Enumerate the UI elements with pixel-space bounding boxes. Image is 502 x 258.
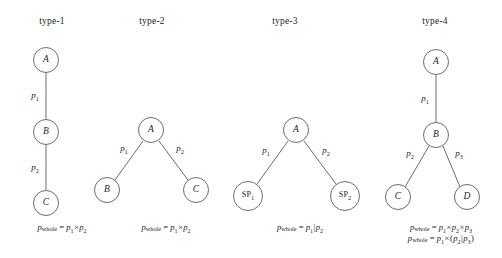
panel-title-type-3: type-3 [272, 16, 297, 26]
node-type-3-A[interactable]: A [283, 117, 309, 143]
edge-label-type-1-p1: p1 [31, 91, 39, 102]
formula-type-2-1: pwhole = p1×p2 [141, 222, 190, 237]
node-type-2-C[interactable]: C [183, 177, 209, 203]
node-type-4-C[interactable]: C [385, 184, 411, 210]
node-label: A [433, 57, 439, 67]
node-label: A [148, 125, 154, 135]
formula-type-1-1: pwhole = p1×p2 [37, 222, 86, 237]
node-type-4-A[interactable]: A [423, 49, 449, 75]
edge-type-3-A-SP2 [304, 141, 336, 184]
edge-label-type-4-p3: p3 [455, 149, 463, 160]
node-label: C [395, 192, 401, 202]
node-label: SP2 [339, 191, 351, 201]
node-type-1-B[interactable]: B [33, 119, 59, 145]
edge-label-type-1-p2: p2 [31, 163, 39, 174]
edge-label-type-4-p1: p1 [421, 94, 429, 105]
panel-title-type-2: type-2 [139, 16, 164, 26]
node-label: B [433, 130, 439, 140]
edge-label-type-3-p2: p2 [322, 146, 330, 157]
node-label: B [104, 185, 110, 195]
node-type-2-B[interactable]: B [94, 177, 120, 203]
node-type-2-A[interactable]: A [138, 117, 164, 143]
node-type-4-D[interactable]: D [454, 184, 480, 210]
edge-label-type-2-p1: p1 [120, 144, 128, 155]
node-type-1-A[interactable]: A [33, 47, 59, 73]
diagram-canvas: type-1ABCp1p2pwhole = p1×p2type-2ABCp1p2… [0, 0, 502, 258]
formula-type-3-1: pwhole = p1|p2 [277, 222, 323, 237]
node-label: C [193, 185, 199, 195]
node-label: C [43, 198, 49, 208]
node-label: B [43, 127, 49, 137]
panel-title-type-1: type-1 [39, 16, 64, 26]
node-type-3-SP1[interactable]: SP1 [233, 181, 263, 211]
edge-label-type-2-p2: p2 [176, 144, 184, 155]
node-type-1-C[interactable]: C [33, 190, 59, 216]
panel-title-type-4: type-4 [422, 16, 447, 26]
node-label: A [43, 55, 49, 65]
node-label: D [464, 192, 471, 202]
edge-label-type-3-p1: p1 [262, 146, 270, 157]
node-type-4-B[interactable]: B [423, 122, 449, 148]
node-type-3-SP2[interactable]: SP2 [330, 181, 360, 211]
node-label: SP1 [242, 191, 254, 201]
formula-type-4-2: pwhole = p1×(p2|p3) [408, 233, 474, 248]
edge-label-type-4-p2: p2 [406, 149, 414, 160]
node-label: A [293, 125, 299, 135]
